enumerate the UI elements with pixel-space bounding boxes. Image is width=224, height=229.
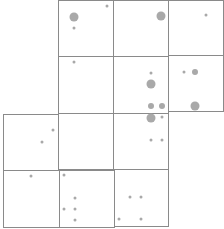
map-point-marker: [73, 61, 76, 64]
map-point-marker: [74, 197, 77, 200]
map-point-marker: [205, 14, 208, 17]
map-point-marker: [183, 71, 186, 74]
map-tile: [113, 0, 169, 57]
map-point-marker: [74, 208, 77, 211]
map-point-marker: [52, 129, 55, 132]
map-tile: [113, 113, 169, 170]
map-point-marker: [129, 196, 132, 199]
map-point-marker: [148, 103, 154, 109]
map-tile: [59, 170, 115, 228]
map-tile: [58, 0, 114, 57]
map-point-marker: [118, 218, 121, 221]
map-point-marker: [41, 141, 44, 144]
map-point-marker: [30, 175, 33, 178]
map-tile: [58, 56, 114, 114]
map-point-marker: [140, 196, 143, 199]
map-point-marker: [147, 114, 156, 123]
map-point-marker: [73, 27, 76, 30]
map-point-marker: [157, 12, 166, 21]
map-point-marker: [150, 72, 153, 75]
map-tile: [168, 0, 224, 56]
map-point-marker: [192, 69, 198, 75]
map-point-marker: [70, 13, 79, 22]
map-tile: [58, 113, 114, 170]
map-point-marker: [63, 208, 66, 211]
map-point-marker: [159, 103, 165, 109]
map-point-marker: [63, 174, 66, 177]
map-point-marker: [106, 5, 109, 8]
map-tile: [3, 114, 59, 171]
map-point-marker: [74, 219, 77, 222]
map-tile: [3, 170, 60, 228]
map-point-marker: [150, 139, 153, 142]
map-point-marker: [161, 139, 164, 142]
map-point-marker: [191, 102, 200, 111]
map-point-marker: [140, 218, 143, 221]
map-point-marker: [161, 116, 164, 119]
map-point-marker: [147, 80, 156, 89]
